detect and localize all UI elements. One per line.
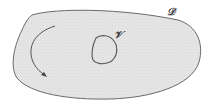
label-d: 𝒟 bbox=[167, 7, 175, 17]
diagram-canvas: 𝒟 𝒱 bbox=[0, 0, 211, 106]
label-v: 𝒱 bbox=[114, 30, 122, 40]
diagram-svg bbox=[0, 0, 211, 106]
outer-region-d bbox=[13, 10, 201, 99]
